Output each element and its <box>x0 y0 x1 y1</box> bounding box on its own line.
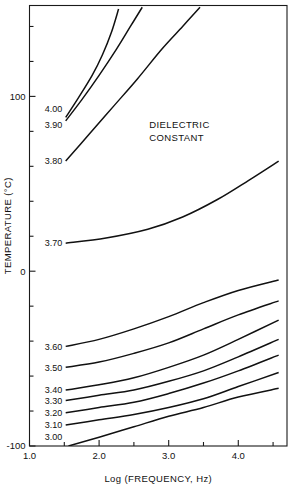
x-tick-label: 4.0 <box>232 450 245 461</box>
x-axis-tick-labels: 1.02.03.04.0 <box>23 450 245 461</box>
curve-3-70 <box>66 161 279 243</box>
x-axis-title: Log (FREQUENCY, Hz) <box>104 473 212 484</box>
curve-3-60 <box>66 280 279 346</box>
annotation-line-1: DIELECTRIC <box>149 119 209 130</box>
curve-value-labels: 4.003.903.803.703.603.503.403.303.203.10… <box>45 104 63 443</box>
curve-label-3-10: 3.10 <box>45 420 63 430</box>
curve-3-00 <box>68 388 278 446</box>
x-tick-label: 2.0 <box>92 450 105 461</box>
curve-label-3-50: 3.50 <box>45 363 63 373</box>
curve-3-90 <box>66 7 143 121</box>
curve-label-3-30: 3.30 <box>45 396 63 406</box>
curve-3-50 <box>66 301 279 367</box>
y-tick-label: 100 <box>10 91 26 102</box>
curve-label-3-90: 3.90 <box>45 120 63 130</box>
y-axis-title: TEMPERATURE (°C) <box>2 177 13 274</box>
curve-label-3-00: 3.00 <box>45 432 63 442</box>
curve-label-3-60: 3.60 <box>45 342 63 352</box>
curve-3-30 <box>66 339 279 400</box>
x-tick-label: 1.0 <box>23 450 36 461</box>
dielectric-constant-line-chart: 1000-100 1.02.03.04.0 4.003.903.803.703.… <box>0 0 297 488</box>
chart-annotation: DIELECTRICCONSTANT <box>149 119 209 143</box>
curve-label-3-20: 3.20 <box>45 408 63 418</box>
curve-4-00 <box>66 9 119 117</box>
y-axis-major-ticks <box>30 96 36 446</box>
curve-label-4-00: 4.00 <box>45 104 63 114</box>
chart-figure: 1000-100 1.02.03.04.0 4.003.903.803.703.… <box>0 0 297 488</box>
y-axis-minor-ticks <box>30 26 34 411</box>
x-tick-label: 3.0 <box>162 450 175 461</box>
data-curves <box>66 7 279 446</box>
annotation-line-2: CONSTANT <box>149 132 204 143</box>
curve-label-3-40: 3.40 <box>45 385 63 395</box>
curve-label-3-70: 3.70 <box>45 238 63 248</box>
y-tick-label: 0 <box>20 266 25 277</box>
curve-3-40 <box>66 320 279 390</box>
curve-label-3-80: 3.80 <box>45 156 63 166</box>
